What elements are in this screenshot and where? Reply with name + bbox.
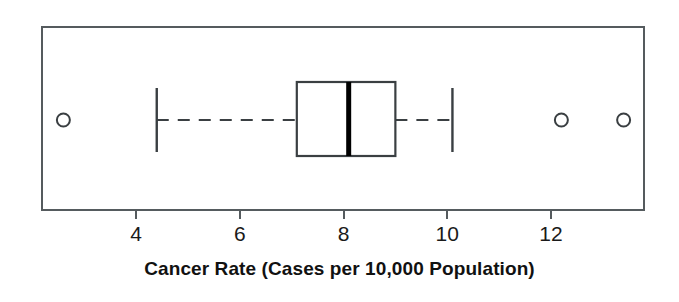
x-tick-label: 8 — [324, 221, 364, 247]
x-tick-label: 12 — [531, 221, 571, 247]
x-tick-mark — [343, 211, 345, 219]
x-tick-mark — [550, 211, 552, 219]
x-tick-mark — [446, 211, 448, 219]
x-tick-mark — [239, 211, 241, 219]
x-tick-mark — [135, 211, 137, 219]
boxplot-figure: 4681012 Cancer Rate (Cases per 10,000 Po… — [0, 0, 679, 302]
x-axis-title: Cancer Rate (Cases per 10,000 Population… — [0, 258, 679, 280]
x-tick-label: 10 — [427, 221, 467, 247]
plot-frame — [41, 26, 645, 211]
x-tick-label: 4 — [116, 221, 156, 247]
x-tick-label: 6 — [220, 221, 260, 247]
